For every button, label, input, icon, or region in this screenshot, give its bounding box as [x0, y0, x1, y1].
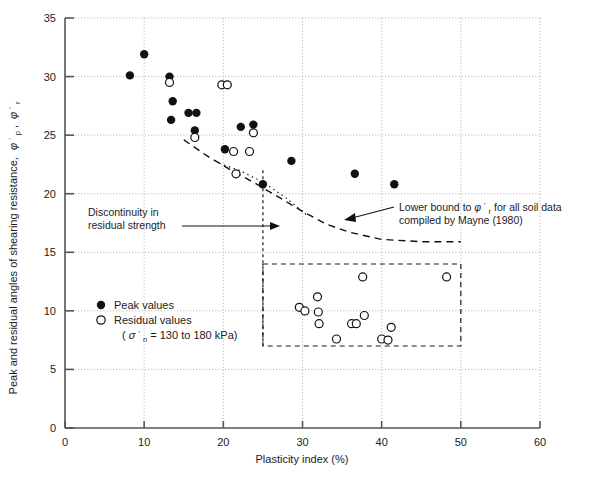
discontinuity-line1: Discontinuity in — [88, 206, 159, 218]
data-point-residual — [249, 129, 257, 137]
data-point-residual — [301, 307, 309, 315]
mayne-prime: ' — [484, 201, 486, 210]
mayne-line1-a: Lower bound to — [399, 201, 474, 213]
legend-peak-label: Peak values — [114, 299, 174, 311]
y-axis-title-main: Peak and residual angles of shearing res… — [7, 157, 19, 394]
data-point-residual — [314, 293, 322, 301]
y-axis-title-comma: , — [7, 125, 19, 128]
y-axis-title-phi-p: φ — [7, 143, 19, 150]
y-axis-subscript-p: p — [13, 131, 22, 135]
y-tick-label: 20 — [44, 188, 56, 200]
data-point-residual — [384, 336, 392, 344]
y-tick-label: 5 — [50, 363, 56, 375]
y-tick-label: 10 — [44, 305, 56, 317]
data-point-residual — [443, 273, 451, 281]
x-tick-label: 30 — [296, 436, 308, 448]
mayne-line2: compiled by Mayne (1980) — [399, 214, 523, 226]
chart-background — [0, 0, 591, 484]
mayne-phi-symbol: φ — [474, 201, 481, 213]
legend-sigma-symbol: σ — [129, 329, 136, 341]
data-point-peak — [221, 145, 229, 153]
legend-paren: ( — [122, 329, 126, 341]
data-point-residual — [230, 148, 238, 156]
y-tick-label: 25 — [44, 129, 56, 141]
x-tick-label: 40 — [376, 436, 388, 448]
legend-peak-marker-icon — [97, 301, 105, 309]
data-point-residual — [191, 134, 199, 142]
data-point-peak — [140, 50, 148, 58]
x-axis-title: Plasticity index (%) — [256, 453, 349, 465]
x-tick-label: 60 — [534, 436, 546, 448]
legend-stress-rest: = 130 to 180 kPa) — [150, 329, 237, 341]
discontinuity-line2: residual strength — [88, 219, 166, 231]
data-point-peak — [237, 123, 245, 131]
data-point-residual — [387, 323, 395, 331]
y-tick-label: 35 — [44, 12, 56, 24]
data-point-peak — [184, 109, 192, 117]
data-point-residual — [359, 273, 367, 281]
data-point-peak — [259, 180, 267, 188]
chart-svg: 0102030405060 05101520253035 Plasticity … — [0, 0, 591, 484]
x-tick-label: 0 — [62, 436, 68, 448]
data-point-peak — [249, 120, 257, 128]
y-tick-label: 0 — [50, 422, 56, 434]
mayne-line1-b: for all soil data — [494, 201, 562, 213]
y-tick-label: 30 — [44, 71, 56, 83]
y-axis-title-phi-r: φ — [7, 112, 19, 119]
data-point-residual — [166, 78, 174, 86]
data-point-peak — [167, 116, 175, 124]
figure-container: 0102030405060 05101520253035 Plasticity … — [0, 0, 591, 484]
data-point-peak — [126, 71, 134, 79]
legend-sigma-subscript: n — [143, 335, 147, 344]
data-point-peak — [169, 97, 177, 105]
data-point-residual — [333, 335, 341, 343]
x-tick-label: 50 — [455, 436, 467, 448]
data-point-residual — [352, 320, 360, 328]
data-point-residual — [360, 312, 368, 320]
data-point-peak — [192, 109, 200, 117]
data-point-residual — [314, 308, 322, 316]
x-tick-label: 20 — [217, 436, 229, 448]
data-point-peak — [390, 180, 398, 188]
legend-sigma-prime: ' — [138, 329, 140, 338]
y-axis-prime-p: ' — [7, 138, 16, 140]
y-tick-label: 15 — [44, 246, 56, 258]
data-point-peak — [351, 170, 359, 178]
data-point-residual — [315, 320, 323, 328]
legend-residual-label: Residual values — [114, 314, 192, 326]
y-axis-prime-r: ' — [7, 107, 16, 109]
x-tick-label: 10 — [138, 436, 150, 448]
data-point-residual — [232, 170, 240, 178]
data-point-residual — [246, 148, 254, 156]
data-point-residual — [223, 81, 231, 89]
data-point-peak — [287, 157, 295, 165]
